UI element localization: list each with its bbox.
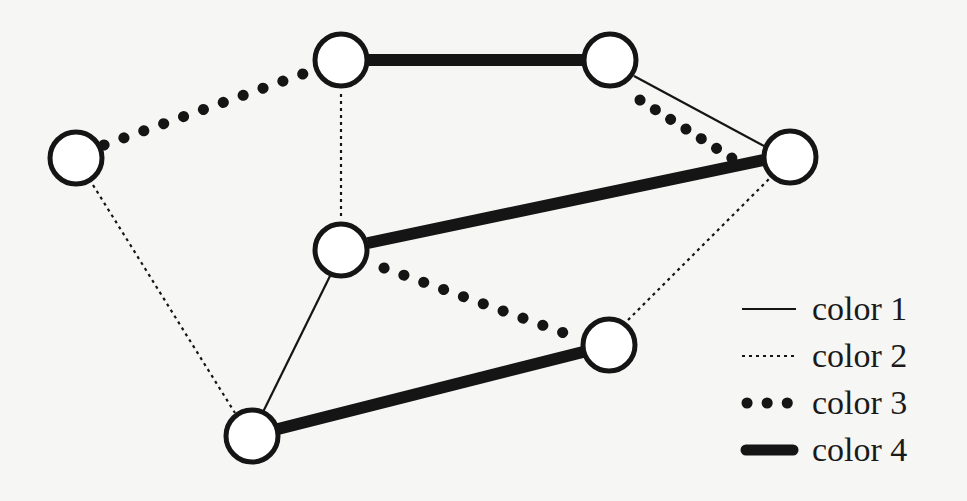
legend-label: color 1 xyxy=(812,292,907,326)
node-f xyxy=(583,319,635,371)
fine-dotted-line-icon xyxy=(738,346,800,366)
node-b xyxy=(315,34,367,86)
thick-solid-line-icon xyxy=(738,440,800,460)
edge-a-g-color2 xyxy=(93,185,235,413)
legend-label: color 4 xyxy=(812,433,907,467)
legend-item-color-1: color 1 xyxy=(738,285,907,332)
bold-dotted-line-icon xyxy=(738,393,800,413)
edge-e-d-color4 xyxy=(368,160,763,243)
node-e xyxy=(315,224,367,276)
legend-label: color 2 xyxy=(812,339,907,373)
legend-label: color 3 xyxy=(812,386,907,420)
node-c xyxy=(584,34,636,86)
legend-item-color-2: color 2 xyxy=(738,332,907,379)
legend-item-color-3: color 3 xyxy=(738,379,907,426)
edge-a-b-color3 xyxy=(104,70,314,145)
edge-c-d-color3 xyxy=(640,100,735,160)
edge-e-f-color3 xyxy=(384,268,578,338)
graph-edges xyxy=(93,60,770,429)
edge-g-f-color4 xyxy=(278,352,583,429)
node-g xyxy=(226,410,278,462)
thin-solid-line-icon xyxy=(738,299,800,319)
legend: color 1 color 2 color 3 color 4 xyxy=(738,285,907,473)
node-a xyxy=(50,132,102,184)
edge-e-g-color1 xyxy=(263,276,330,412)
graph-nodes xyxy=(50,34,816,462)
legend-item-color-4: color 4 xyxy=(738,426,907,473)
node-d xyxy=(764,131,816,183)
